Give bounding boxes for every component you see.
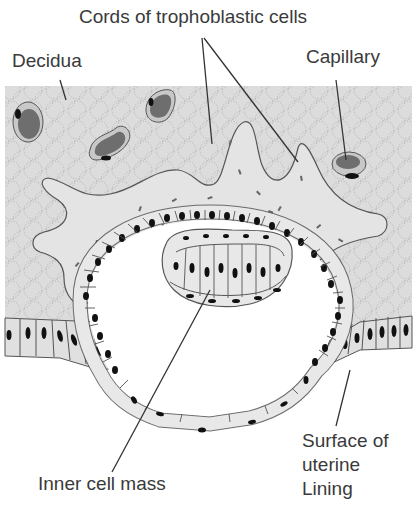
capillary-1 — [13, 102, 43, 142]
label-surface-line2: uterine — [302, 454, 360, 476]
label-surface-line3: Lining — [302, 478, 353, 500]
label-cords-of-trophoblastic-cells: Cords of trophoblastic cells — [79, 6, 307, 28]
label-capillary: Capillary — [306, 46, 380, 68]
diagram-blastocyst-implantation: Cords of trophoblastic cells Decidua Cap… — [0, 0, 417, 506]
label-surface-line1: Surface of — [302, 430, 389, 452]
leader-surface — [336, 370, 350, 426]
label-decidua: Decidua — [12, 50, 82, 72]
label-inner-cell-mass: Inner cell mass — [38, 473, 166, 495]
